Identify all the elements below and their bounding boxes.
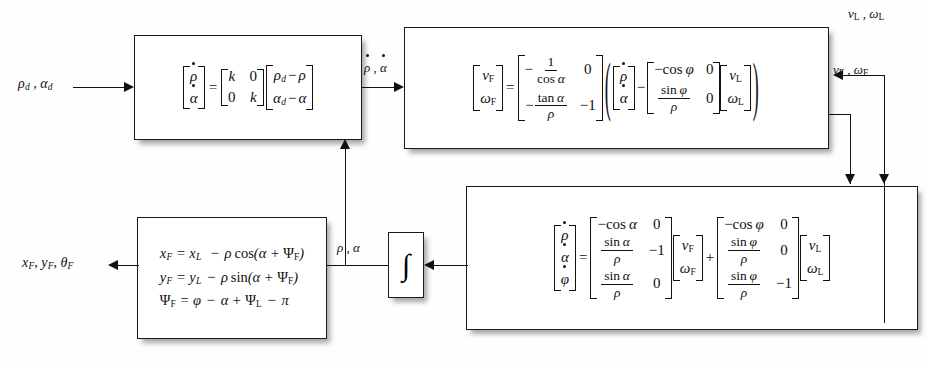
follower-velocity-lhs: vF ωF [473, 65, 503, 111]
kinematics-leader-matrix: −cos φ0 sin φρ0 sin φρ−1 [717, 217, 799, 300]
block-follower-velocity-solver[interactable]: vF ωF = −1cos α0 −tan αρ−1 ρ α [404, 27, 829, 149]
block-follower-pose-equations[interactable]: xF = xL − ρ cos(α + ΨF) yF = yL − ρ sin(… [137, 217, 327, 339]
equals-sign: = [207, 80, 219, 96]
arrowhead-output [108, 260, 118, 270]
arrowhead-follower-into-kinematics [845, 174, 855, 184]
follower-state-vector: ρ α [613, 66, 635, 110]
minus-sign: − [635, 80, 647, 96]
equation-xF: xF = xL − ρ cos(α + ΨF) [160, 246, 304, 263]
kinematics-lhs-vector: ρ α φ [554, 225, 576, 290]
follower-lead-matrix: −1cos α0 −tan αρ−1 [518, 55, 603, 121]
follower-leader-vector: vL ωL [720, 65, 750, 111]
arrowhead-feedback-into-controller [340, 139, 350, 149]
kinematics-leader-vector: vL ωL [800, 235, 830, 281]
wire-leader-vertical [884, 75, 886, 323]
arrowhead-controller-solver [394, 82, 404, 92]
block-integrator[interactable]: ∫ [388, 232, 424, 298]
kinematics-follower-matrix: −cos α0 sin αρ−1 sin αρ0 [590, 217, 671, 300]
wire-input-to-controller [73, 87, 125, 89]
controller-lhs-vector: ρ α [183, 66, 205, 110]
wire-pose-to-output [117, 265, 139, 267]
kinematics-follower-vector: vF ωF [673, 235, 703, 281]
integral-icon: ∫ [402, 250, 410, 280]
label-leader-velocity: vL , ωL [848, 6, 884, 22]
label-output-pose: xF, yF, θF [22, 255, 73, 271]
block-diagram-canvas: ρ α = k0 0k ρd−ρ αd−α [0, 0, 928, 366]
equation-psiF: ΨF = φ − α + ΨL − π [160, 293, 304, 310]
label-rho-alpha: ρ , α [337, 240, 360, 256]
label-input-desired: ρd , αd [18, 76, 52, 92]
equals-sign-3: = [577, 250, 589, 266]
wire-kinematics-to-integrator [432, 265, 468, 267]
wire-feedback-vertical [345, 148, 347, 265]
follower-leader-matrix: −cos φ0 sin φρ0 [647, 62, 720, 113]
follower-group-paren: ρ α − −cos φ0 sin φρ0 vL [604, 62, 760, 113]
plus-sign: + [704, 250, 716, 266]
label-follower-velocity: vF , ωF [833, 62, 868, 78]
controller-error-vector: ρd−ρ αd−α [266, 65, 313, 111]
arrowhead-leader-into-kinematics [879, 174, 889, 184]
equals-sign-2: = [504, 80, 516, 96]
equation-yF: yF = yL − ρ sin(α + ΨF) [160, 270, 304, 287]
label-rho-alpha-dot: ρ , α [364, 60, 387, 76]
arrowhead-into-integrator [424, 260, 434, 270]
wire-follower-out-horizontal [829, 114, 851, 116]
wire-controller-to-solver [362, 87, 395, 89]
wire-follower-vertical [850, 114, 852, 184]
block-formation-kinematics[interactable]: ρ α φ = −cos α0 sin αρ−1 sin αρ0 vF ωF [466, 186, 918, 330]
wire-integrator-to-pose [327, 265, 388, 267]
controller-gain-matrix: k0 0k [221, 69, 264, 106]
block-proportional-controller[interactable]: ρ α = k0 0k ρd−ρ αd−α [134, 35, 362, 140]
arrowhead-input-controller [124, 82, 134, 92]
